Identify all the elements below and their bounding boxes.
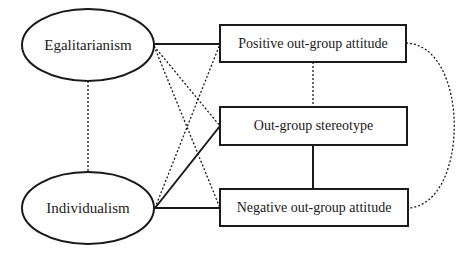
- edge-individualism-stereotype: [155, 126, 220, 208]
- edge-positive-negative-curve: [406, 43, 454, 208]
- diagram-canvas: [0, 0, 460, 258]
- node-individualism-ellipse: [22, 172, 154, 244]
- node-egalitarianism-ellipse: [22, 9, 154, 81]
- edge-egalitarianism-stereotype: [154, 46, 220, 126]
- node-positive-box: [220, 25, 406, 62]
- node-stereotype-box: [220, 107, 407, 145]
- node-negative-box: [220, 189, 408, 226]
